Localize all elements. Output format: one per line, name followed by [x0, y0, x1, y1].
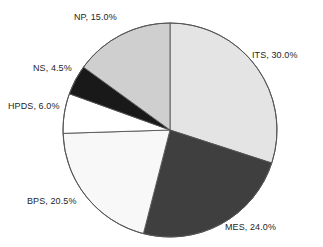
slice-label-its: ITS, 30.0%: [252, 50, 298, 61]
pie-chart: NP, 15.0% ITS, 30.0% NS, 4.5% HPDS, 6.0%…: [0, 0, 323, 247]
pie-chart-canvas: [0, 0, 323, 247]
slice-label-mes: MES, 24.0%: [225, 222, 276, 233]
slice-label-bps: BPS, 20.5%: [27, 196, 77, 207]
slice-label-ns: NS, 4.5%: [33, 63, 72, 74]
slice-label-np: NP, 15.0%: [74, 12, 117, 23]
slice-label-hpds: HPDS, 6.0%: [8, 101, 60, 112]
pie-slices-group: [63, 23, 277, 237]
